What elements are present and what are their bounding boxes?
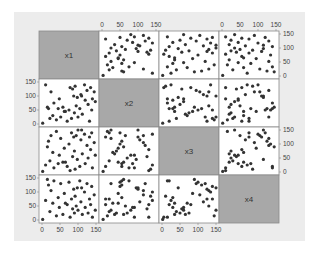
data-point [49, 189, 52, 192]
data-point [186, 202, 189, 205]
data-point [41, 170, 44, 173]
data-point [88, 197, 91, 200]
data-point [184, 43, 187, 46]
data-point [211, 108, 214, 111]
data-point [171, 196, 174, 199]
data-point [173, 106, 176, 109]
data-point [59, 182, 62, 185]
data-point [193, 178, 196, 181]
data-point [249, 62, 252, 65]
data-point [151, 190, 154, 193]
data-point [198, 193, 201, 196]
data-point [131, 41, 134, 44]
data-point [129, 33, 132, 36]
data-point [122, 213, 125, 216]
data-point [237, 41, 240, 44]
data-point [109, 137, 112, 140]
data-point [209, 190, 212, 193]
data-point [61, 213, 64, 216]
data-point [111, 202, 114, 205]
data-point [166, 35, 169, 38]
data-point [44, 83, 47, 86]
data-point [46, 178, 49, 181]
data-point [214, 209, 217, 212]
data-point [240, 165, 243, 168]
data-point [273, 70, 276, 73]
data-point [47, 140, 50, 143]
data-point [244, 138, 247, 141]
data-point [209, 41, 212, 44]
data-point [214, 115, 217, 118]
data-point [175, 117, 178, 120]
data-point [240, 37, 243, 40]
data-point [117, 147, 120, 150]
data-point [228, 113, 231, 116]
data-point [242, 114, 245, 117]
data-point [89, 86, 92, 89]
data-point [242, 161, 245, 164]
data-point [151, 133, 154, 136]
data-point [267, 60, 270, 63]
data-point [93, 141, 96, 144]
data-point [94, 154, 97, 157]
data-point [80, 94, 83, 97]
data-point [169, 83, 172, 86]
data-point [228, 106, 231, 109]
bottom-axis-tick-label: 50 [176, 226, 184, 233]
data-point [46, 106, 49, 109]
data-point [87, 103, 90, 106]
data-point [265, 69, 268, 72]
data-point [177, 96, 180, 99]
data-point [247, 117, 250, 120]
data-point [229, 156, 232, 159]
data-point [120, 196, 123, 199]
data-point [255, 57, 258, 60]
bottom-axis-tick-label: 0 [40, 226, 44, 233]
data-point [177, 186, 180, 189]
data-point [200, 69, 203, 72]
data-point [78, 107, 81, 110]
data-point [169, 199, 172, 202]
data-point [73, 111, 76, 114]
data-point [224, 169, 227, 172]
data-point [189, 37, 192, 40]
data-point [200, 107, 203, 110]
data-point [195, 182, 198, 185]
data-point [244, 93, 247, 96]
data-point [164, 49, 167, 52]
data-point [127, 179, 130, 182]
data-point [228, 43, 231, 46]
data-point [115, 149, 118, 152]
data-point [41, 218, 44, 221]
data-point [180, 87, 183, 90]
data-point [144, 182, 147, 185]
data-point [76, 158, 79, 161]
data-point [73, 211, 76, 214]
data-point [79, 138, 82, 141]
data-point [76, 209, 79, 212]
data-point [129, 154, 132, 157]
data-point [76, 96, 79, 99]
data-point [117, 161, 120, 164]
data-point [251, 168, 254, 171]
data-point [204, 60, 207, 63]
data-point [262, 44, 265, 47]
data-point [118, 53, 121, 56]
data-point [251, 49, 254, 52]
data-point [108, 131, 111, 134]
data-point [247, 120, 250, 123]
data-point [90, 108, 93, 111]
data-point [161, 122, 164, 125]
data-point [93, 90, 96, 93]
data-point [267, 137, 270, 140]
data-point [136, 50, 139, 53]
right-axis-tick-label: 100 [283, 140, 294, 147]
data-point [87, 156, 90, 159]
data-point [109, 60, 112, 63]
data-point [267, 89, 270, 92]
data-point [240, 120, 243, 123]
data-point [200, 183, 203, 186]
data-point [147, 148, 150, 151]
data-point [226, 118, 229, 121]
data-point [124, 204, 127, 207]
